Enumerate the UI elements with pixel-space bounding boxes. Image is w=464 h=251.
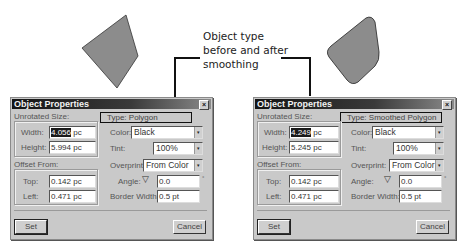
- degree-mark: °: [202, 175, 204, 181]
- smoothed-polygon-shape: [327, 17, 379, 84]
- divider: [14, 210, 207, 211]
- color-select[interactable]: Black▾: [372, 126, 444, 139]
- overprint-select[interactable]: From Color▾: [143, 159, 203, 172]
- callout-line-2: before and after: [203, 43, 288, 57]
- color-value: Black: [375, 127, 396, 137]
- top-label: Top:: [266, 177, 281, 186]
- callout-text: Object type before and after smoothing: [203, 29, 288, 71]
- object-properties-dialog-after: Object Properties × Unrotated Size: Type…: [253, 97, 456, 240]
- close-button[interactable]: ×: [199, 100, 209, 110]
- top-field[interactable]: 0.142 pc: [289, 175, 339, 188]
- top-field[interactable]: 0.142 pc: [49, 175, 96, 188]
- tint-select[interactable]: 100%▾: [153, 142, 203, 155]
- dialog-title: Object Properties: [257, 99, 332, 109]
- dialog-titlebar[interactable]: Object Properties ×: [12, 99, 211, 109]
- width-unit: pc: [311, 128, 322, 137]
- dialog-title: Object Properties: [14, 99, 89, 109]
- top-label: Top:: [23, 177, 38, 186]
- height-label: Height:: [21, 143, 46, 152]
- tint-label: Tint:: [351, 144, 366, 153]
- close-button[interactable]: ×: [442, 100, 452, 110]
- tint-value: 100%: [396, 143, 418, 153]
- left-label: Left:: [266, 192, 282, 201]
- dropdown-arrow-icon: ▾: [435, 143, 443, 154]
- color-value: Black: [134, 127, 155, 137]
- type-indicator: Type: Smoothed Polygon: [340, 112, 442, 123]
- angle-label: Angle:: [351, 177, 374, 186]
- dropdown-arrow-icon: ▾: [435, 127, 443, 138]
- border-width-field[interactable]: 0.5 pt: [157, 190, 200, 203]
- angle-triangle-icon[interactable]: ▽: [142, 175, 149, 184]
- height-label: Height:: [262, 143, 287, 152]
- border-width-label: Border Width:: [351, 192, 400, 201]
- unrotated-size-label: Unrotated Size:: [257, 112, 312, 121]
- close-icon: ×: [202, 101, 206, 108]
- offset-from-label: Offset From:: [257, 160, 301, 169]
- angle-label: Angle:: [118, 177, 141, 186]
- angle-field[interactable]: 0.0: [157, 175, 200, 188]
- left-field[interactable]: 0.471 pc: [289, 190, 339, 203]
- overprint-label: Overprint:: [110, 161, 145, 170]
- height-field[interactable]: 5.245 pc: [289, 141, 339, 154]
- tint-label: Tint:: [110, 144, 125, 153]
- leader-line-right-h: [281, 57, 310, 59]
- object-properties-dialog-before: Object Properties × Unrotated Size: Type…: [10, 97, 213, 240]
- overprint-select[interactable]: From Color▾: [389, 159, 444, 172]
- overprint-label: Overprint:: [351, 161, 386, 170]
- width-unit: pc: [71, 128, 82, 137]
- color-label: Color:: [110, 128, 131, 137]
- dropdown-arrow-icon: ▾: [194, 143, 202, 154]
- left-field[interactable]: 0.471 pc: [49, 190, 96, 203]
- color-label: Color:: [351, 128, 372, 137]
- border-width-label: Border Width:: [110, 192, 159, 201]
- width-field[interactable]: 4.249 pc: [289, 126, 339, 139]
- overprint-value: From Color: [392, 160, 435, 170]
- dropdown-arrow-icon: ▾: [194, 127, 202, 138]
- cancel-button[interactable]: Cancel: [173, 220, 206, 234]
- angle-field[interactable]: 0.0: [399, 175, 442, 188]
- offset-from-label: Offset From:: [14, 160, 58, 169]
- polygon-shape: [82, 15, 138, 88]
- set-button[interactable]: Set: [15, 220, 47, 234]
- divider: [257, 210, 450, 211]
- overprint-value: From Color: [146, 160, 189, 170]
- dialog-titlebar[interactable]: Object Properties ×: [255, 99, 454, 109]
- tint-value: 100%: [156, 143, 178, 153]
- width-label: Width:: [21, 128, 44, 137]
- leader-line-right-v: [309, 57, 311, 82]
- type-indicator: Type: Polygon: [100, 112, 192, 123]
- leader-line-right-v2: [309, 82, 311, 96]
- unrotated-size-label: Unrotated Size:: [14, 112, 69, 121]
- dropdown-arrow-icon: ▾: [435, 160, 443, 171]
- degree-mark: °: [444, 175, 446, 181]
- width-label: Width:: [264, 128, 287, 137]
- width-field[interactable]: 4.056 pc: [49, 126, 96, 139]
- dropdown-arrow-icon: ▾: [194, 160, 202, 171]
- left-label: Left:: [23, 192, 39, 201]
- color-select[interactable]: Black▾: [131, 126, 203, 139]
- height-field[interactable]: 5.994 pc: [49, 141, 96, 154]
- close-icon: ×: [445, 101, 449, 108]
- set-button[interactable]: Set: [258, 220, 290, 234]
- tint-select[interactable]: 100%▾: [393, 142, 444, 155]
- width-selected-text: 4.249: [291, 128, 311, 137]
- callout-line-3: smoothing: [203, 57, 288, 71]
- cancel-button[interactable]: Cancel: [416, 220, 449, 234]
- callout-line-1: Object type: [203, 29, 288, 43]
- angle-triangle-icon[interactable]: ▽: [384, 175, 391, 184]
- border-width-field[interactable]: 0.5 pt: [399, 190, 442, 203]
- leader-line-left-h: [174, 57, 200, 59]
- width-selected-text: 4.056: [51, 128, 71, 137]
